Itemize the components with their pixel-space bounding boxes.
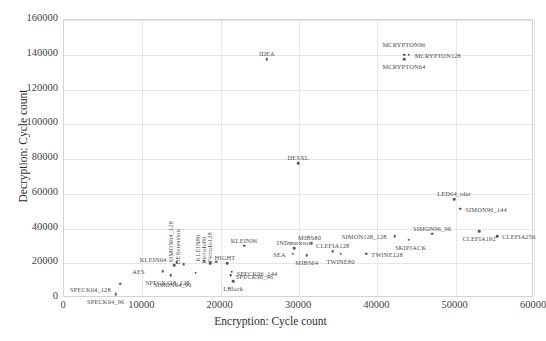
data-point bbox=[306, 254, 309, 257]
point-label: SPECK64_96 bbox=[87, 299, 124, 305]
data-point bbox=[459, 207, 462, 210]
point-label: MCRYPTON64 bbox=[382, 64, 425, 70]
point-label: SIMON96_144 bbox=[465, 207, 506, 213]
gridline-vertical bbox=[456, 20, 457, 296]
data-point bbox=[297, 162, 300, 165]
data-point bbox=[431, 232, 434, 235]
gridline-horizontal bbox=[64, 20, 532, 21]
point-label: SPECK96_96 bbox=[236, 274, 273, 280]
data-point bbox=[230, 270, 233, 273]
point-label: SPECK128_128 bbox=[146, 280, 190, 286]
data-point bbox=[232, 280, 235, 283]
y-tick-label: 120000 bbox=[0, 82, 58, 93]
point-label: Piccolo128 bbox=[207, 232, 213, 262]
data-point bbox=[119, 282, 122, 285]
y-tick-label: 140000 bbox=[0, 47, 58, 58]
point-label: MIBS80 bbox=[298, 235, 321, 241]
point-label: SIMON96_96 bbox=[413, 226, 451, 232]
data-point bbox=[266, 58, 269, 61]
data-point bbox=[169, 274, 172, 277]
data-point bbox=[243, 245, 246, 248]
point-label: CLEFIA256 bbox=[502, 234, 535, 240]
data-point bbox=[478, 230, 481, 233]
data-point bbox=[310, 242, 313, 245]
gridline-horizontal bbox=[64, 124, 532, 125]
data-point bbox=[291, 252, 294, 255]
point-label: TWINE80 bbox=[327, 259, 355, 265]
data-point bbox=[161, 270, 164, 273]
y-tick-label: 80000 bbox=[0, 151, 58, 162]
y-tick-label: 160000 bbox=[0, 12, 58, 23]
gridline-horizontal bbox=[64, 55, 532, 56]
point-label: MCRYPTON128 bbox=[415, 53, 461, 59]
x-tick-label: 40000 bbox=[363, 299, 389, 310]
y-axis-title: Decryption: Cycle count bbox=[17, 61, 29, 231]
point-label: HIGHT bbox=[215, 255, 236, 261]
data-point bbox=[293, 247, 296, 250]
point-label: LED64_tdur bbox=[437, 191, 471, 197]
x-tick-label: 30000 bbox=[285, 299, 311, 310]
point-label: SPECK64_128 bbox=[70, 287, 111, 293]
data-point bbox=[339, 252, 342, 255]
plot-area: SPECK64_96SPECK64_128AESSIMON64_96KLEIN6… bbox=[63, 19, 533, 297]
data-point bbox=[403, 53, 406, 56]
gridline-horizontal bbox=[64, 229, 532, 230]
point-label: MCRYPTON96 bbox=[382, 42, 425, 48]
gridline-vertical bbox=[142, 20, 143, 296]
point-label: LBlock bbox=[223, 286, 243, 292]
y-tick-label: 100000 bbox=[0, 116, 58, 127]
gridline-horizontal bbox=[64, 90, 532, 91]
point-label: CLEFIA128 bbox=[316, 243, 349, 249]
x-tick-label: 50000 bbox=[442, 299, 468, 310]
x-tick-label: 60000 bbox=[520, 299, 546, 310]
point-label: IDEA bbox=[259, 51, 275, 57]
point-label: DESXL bbox=[288, 155, 309, 161]
y-tick-label: 60000 bbox=[0, 186, 58, 197]
point-label: AES bbox=[132, 269, 145, 275]
y-tick-label: 20000 bbox=[0, 255, 58, 266]
point-label: MIBS64 bbox=[295, 260, 318, 266]
point-label: KLEIN96 bbox=[231, 238, 258, 244]
data-point bbox=[393, 235, 396, 238]
point-label: DESxtension bbox=[174, 229, 180, 264]
data-point bbox=[453, 198, 456, 201]
point-label: TWINE128 bbox=[371, 252, 402, 258]
x-axis-title: Encryption: Cycle count bbox=[0, 315, 541, 327]
x-tick-label: 0 bbox=[60, 299, 65, 310]
point-label: SKIPJACK bbox=[395, 245, 426, 251]
point-label: KLEIN64 bbox=[140, 257, 167, 263]
gridline-vertical bbox=[534, 20, 535, 296]
data-point bbox=[496, 235, 499, 238]
data-point bbox=[114, 293, 117, 296]
data-point bbox=[331, 250, 334, 253]
x-tick-label: 10000 bbox=[128, 299, 154, 310]
data-point bbox=[183, 263, 186, 266]
point-label: CLEFIA192 bbox=[463, 236, 496, 242]
x-tick-label: 20000 bbox=[207, 299, 233, 310]
y-tick-label: 40000 bbox=[0, 221, 58, 232]
data-point bbox=[226, 262, 229, 265]
data-point bbox=[407, 238, 410, 241]
data-point bbox=[403, 58, 406, 61]
data-point bbox=[407, 53, 410, 56]
point-label: SIMON128_128 bbox=[342, 234, 387, 240]
data-point bbox=[194, 272, 197, 275]
data-point bbox=[230, 274, 233, 277]
y-tick-label: 0 bbox=[0, 290, 58, 301]
point-label: SEA bbox=[273, 252, 286, 258]
data-point bbox=[365, 252, 368, 255]
